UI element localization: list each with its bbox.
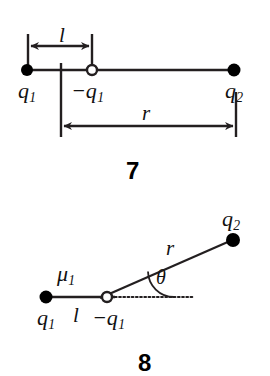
diagram-7-label-r: r: [142, 103, 150, 124]
diagram-8-label-l: l: [73, 305, 79, 326]
diagram-8-label-theta: θ: [156, 267, 166, 287]
figure-canvas: q1 l −q1 q2 r 7 q2 r θ μ1 q1 l −q1 8: [0, 0, 270, 376]
diagram-8-charge-minus-q1-circle: [102, 292, 112, 302]
diagram-8-label-r: r: [166, 238, 174, 259]
diagram-7-charge-q2-dot: [228, 64, 241, 77]
diagram-8-figure-number: 8: [138, 351, 151, 375]
diagram-7-charge-minus-q1-circle: [87, 65, 97, 75]
diagram-7-group: [21, 34, 241, 137]
diagram-7-label-l: l: [59, 25, 65, 46]
diagram-8-charge-q2-dot: [226, 233, 240, 247]
diagram-8-label-mu1: μ1: [57, 263, 75, 285]
diagram-7-charge-q1-dot: [21, 64, 33, 76]
diagram-7-figure-number: 7: [126, 159, 139, 183]
diagram-7-label-q2: q2: [225, 80, 243, 102]
diagram-8-label-q1: q1: [37, 307, 55, 329]
diagram-8-label-q2: q2: [222, 208, 240, 230]
diagram-7-label-minus-q1: −q1: [71, 80, 104, 102]
diagram-8-label-minus-q1: −q1: [92, 307, 125, 329]
diagram-7-label-q1: q1: [18, 80, 36, 102]
diagram-8-charge-q1-dot: [40, 291, 53, 304]
